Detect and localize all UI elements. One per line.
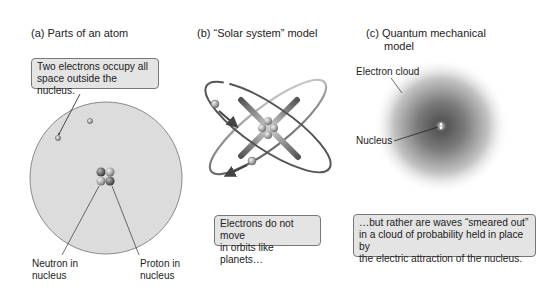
panel-a-atom bbox=[30, 94, 182, 255]
electron-icon bbox=[248, 157, 256, 165]
nucleus-label: Nucleus bbox=[356, 135, 392, 147]
panel-a-callout: Two electrons occupy all space outside t… bbox=[31, 58, 159, 89]
title-line: model bbox=[366, 40, 486, 53]
label-line: Neutron in bbox=[32, 258, 78, 270]
electron-icon bbox=[87, 118, 92, 123]
callout-line: in orbits like planets… bbox=[220, 242, 315, 266]
panel-c-cloud-model bbox=[373, 58, 509, 194]
label-line: Proton in bbox=[140, 258, 180, 270]
panel-b-title: (b) “Solar system” model bbox=[197, 27, 317, 40]
panel-c-callout: …but rather are waves “smeared out” in a… bbox=[353, 214, 536, 257]
title-line: (c) Quantum mechanical bbox=[366, 27, 486, 40]
callout-line: …but rather are waves “smeared out” bbox=[359, 217, 530, 229]
callout-line: the electric attraction of the nucleus. bbox=[359, 253, 530, 265]
callout-line: Electrons do not move bbox=[220, 218, 315, 242]
electron-cloud-label: Electron cloud bbox=[356, 66, 419, 78]
electron-icon bbox=[55, 135, 60, 140]
proton-label: Proton in nucleus bbox=[140, 258, 180, 282]
callout-line: in a cloud of probability held in place … bbox=[359, 229, 530, 253]
callout-line: space outside the nucleus. bbox=[37, 73, 153, 97]
panel-a-title: (a) Parts of an atom bbox=[31, 27, 128, 40]
neutron-label: Neutron in nucleus bbox=[32, 258, 78, 282]
electron-icon bbox=[211, 100, 219, 108]
panel-b-callout: Electrons do not move in orbits like pla… bbox=[214, 215, 321, 246]
panel-c-title: (c) Quantum mechanical model bbox=[366, 27, 486, 53]
callout-line: Two electrons occupy all bbox=[37, 61, 153, 73]
electron-space-circle bbox=[30, 102, 182, 254]
panel-b-solar-model bbox=[194, 67, 341, 187]
label-line: nucleus bbox=[140, 270, 180, 282]
label-line: nucleus bbox=[32, 270, 78, 282]
